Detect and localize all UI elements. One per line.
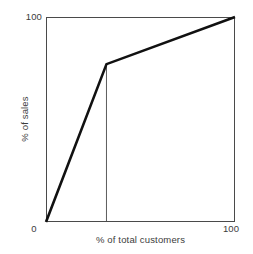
y-axis-tick-100: 100 — [20, 11, 42, 22]
lorenz-curve-line — [46, 17, 235, 222]
y-axis-label: % of sales — [19, 96, 30, 141]
lorenz-curve-figure: 100 0 100 % of total customers % of sale… — [0, 0, 253, 254]
x-axis-label: % of total customers — [46, 234, 235, 245]
x-axis-tick-100: 100 — [219, 223, 243, 234]
x-axis-tick-0: 0 — [28, 223, 40, 234]
plot-area — [0, 0, 253, 254]
y-axis-label-container: % of sales — [17, 49, 31, 189]
